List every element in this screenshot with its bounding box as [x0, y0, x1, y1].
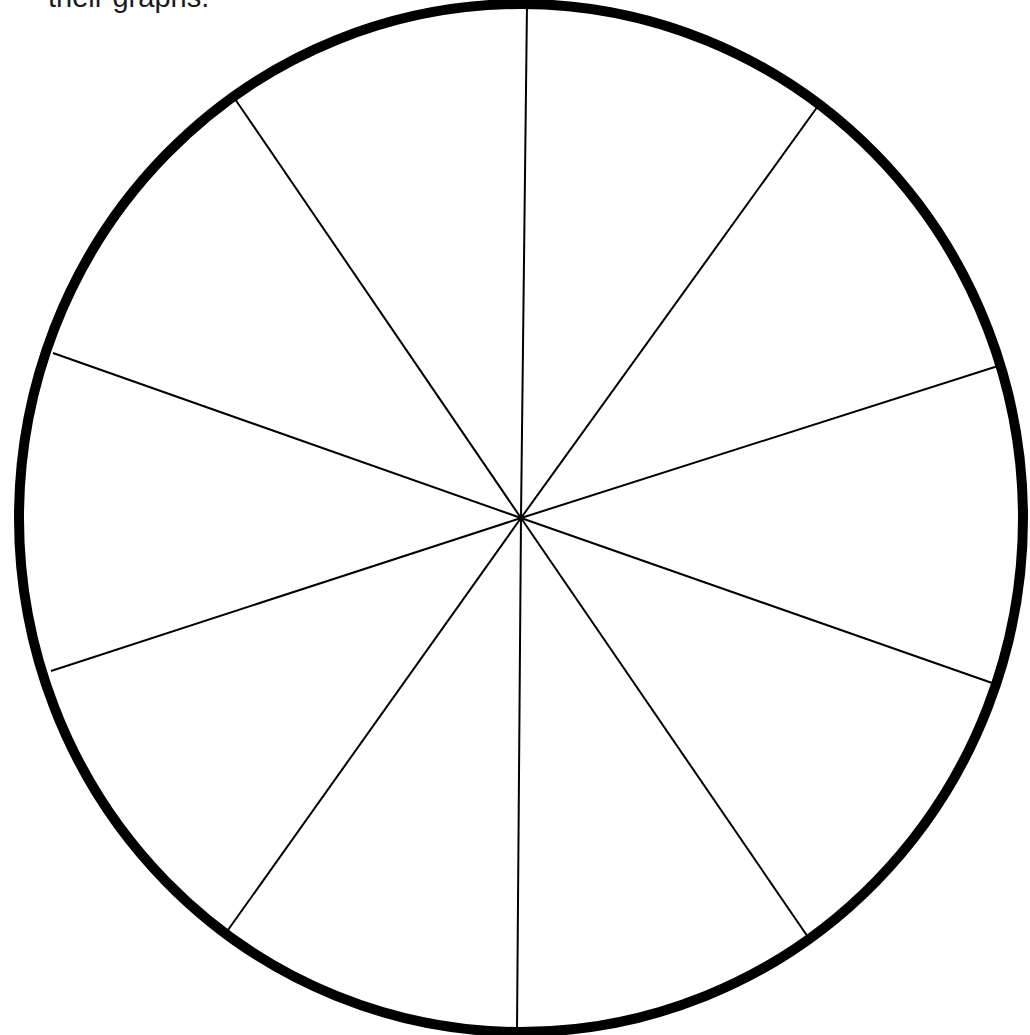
blank-pie-chart: [0, 0, 1030, 1035]
